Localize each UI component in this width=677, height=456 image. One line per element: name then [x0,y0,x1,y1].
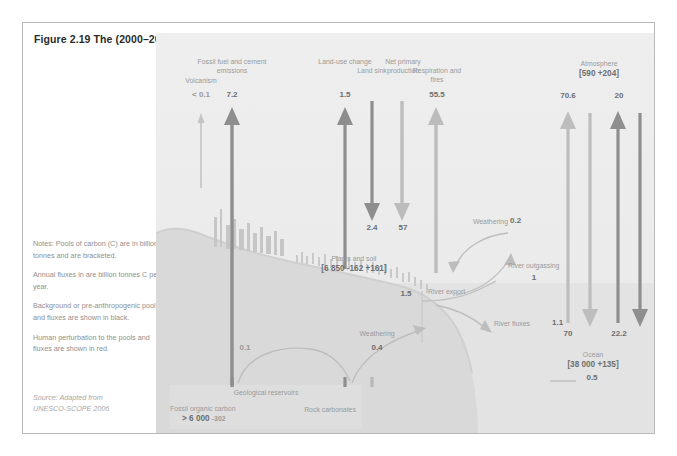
source-line-1: Source: Adapted from [33,392,173,403]
value-fossil-fuel: 7.2 [202,90,262,99]
reservoir-stub-fossil [230,377,233,387]
note-item: Background or pre-anthropogenic pools an… [33,300,165,323]
notes-block: Notes: Pools of carbon (C) are in billio… [33,238,165,363]
label-weathering-land: Weathering [346,329,408,338]
pool-atmosphere-value: [590 +204] [544,69,654,78]
label-fossil-fuel: Fossil fuel and cement emissions [196,57,268,76]
label-geological-reservoirs: Geological reservoirs [204,388,328,397]
value-respiration-and-fires: 55.5 [408,90,466,99]
pool-atmosphere-name: Atmosphere [544,60,654,67]
value-river-fluxes: 1.1 [552,318,572,327]
value-net-primary-production: 57 [378,223,428,232]
value-ocean-to-atmosphere-natural: 70.6 [544,91,592,100]
value-ocean-to-atmosphere-anthropogenic: 20 [596,91,642,100]
figure-canvas: Figure 2.19 The (2000–2005) global carbo… [0,0,677,456]
label-river-export: River export [428,287,486,296]
label-weathering-atmosphere: Weathering [442,217,508,226]
pool-fossil-organic-carbon: Fossil organic carbon > 6 000 -302 [170,405,282,423]
note-item: Notes: Pools of carbon (C) are in billio… [33,238,165,261]
reservoir-stub-rock [343,377,346,387]
value-river-outgassing: 1 [524,273,544,282]
pool-plants-and-soil-name: Plants and soil [274,255,434,262]
reservoir-stub-rock-2 [370,377,373,387]
note-item: Annual fluxes in are billion tonnes C pe… [33,269,165,292]
pool-plants-and-soil-value: [6 850 -162 +161] [274,264,434,273]
note-item: Human perturbation to the pools and flux… [33,332,165,355]
value-land-use-change: 1.5 [318,90,372,99]
label-rock-carbonates: Rock carbonates [292,405,368,414]
value-ocean-burial: 0.5 [580,373,604,382]
value-geological-flux: 0.1 [230,343,260,352]
pool-fossil-organic-carbon-name: Fossil organic carbon [170,405,282,412]
value-weathering-atmosphere: 0.2 [510,216,530,225]
pool-fossil-organic-carbon-value: > 6 000 -302 [170,414,282,423]
label-respiration-and-fires: Respiration and fires [408,66,466,85]
label-river-fluxes: River fluxes [494,319,552,328]
label-river-outgassing: River outgassing [508,261,578,270]
diagram-plate: Volcanism < 0.1 Fossil fuel and cement e… [156,33,654,433]
source-credit: Source: Adapted from UNESCO-SCOPE 2006 [33,392,173,415]
pool-atmosphere: Atmosphere [590 +204] [544,60,654,78]
value-weathering-land: 0.4 [346,343,408,352]
fossil-carbon-perturbation: -302 [212,415,226,422]
value-river-export: 1.5 [394,289,418,298]
label-land-use-change: Land-use change [318,57,372,66]
value-atmosphere-to-ocean-anthropogenic: 22.2 [596,329,642,338]
pool-plants-and-soil: Plants and soil [6 850 -162 +161] [274,255,434,273]
fossil-carbon-base: > 6 000 [182,414,210,423]
pool-ocean-value: [38 000 +135] [534,360,652,369]
label-volcanism: Volcanism [171,76,231,85]
pool-ocean: Ocean [38 000 +135] [534,351,652,369]
value-atmosphere-to-ocean-natural: 70 [544,329,592,338]
pool-ocean-name: Ocean [534,351,652,358]
source-line-2: UNESCO-SCOPE 2006 [33,403,173,414]
